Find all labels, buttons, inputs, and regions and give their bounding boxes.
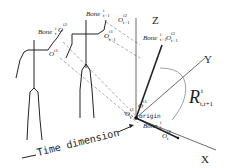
time-dimension-label: Time dimension bbox=[36, 127, 120, 158]
svg-text:i1: i1 bbox=[54, 48, 58, 53]
origin-point bbox=[134, 116, 138, 120]
bone-t-endpoint bbox=[177, 137, 179, 139]
svg-text:i1: i1 bbox=[130, 107, 134, 112]
svg-text:t: t bbox=[167, 136, 169, 141]
svg-text:i: i bbox=[201, 87, 203, 95]
bone-rotation-diagram: Time dimension Z Y X origin R i t,t+1 Bo… bbox=[0, 0, 230, 168]
svg-text:O: O bbox=[58, 26, 63, 34]
axis-frame-labels: Bone t+1 i O i2 t+1 O i1 O i1 t Bone t i… bbox=[125, 31, 178, 141]
svg-text:Bone: Bone bbox=[86, 10, 100, 18]
time-dimension-arrow: Time dimension bbox=[22, 124, 134, 158]
origin-label: origin bbox=[139, 112, 161, 120]
svg-text:i: i bbox=[160, 120, 162, 125]
svg-text:t+1: t+1 bbox=[123, 20, 130, 25]
svg-text:Bone: Bone bbox=[38, 28, 52, 36]
svg-text:i: i bbox=[55, 26, 57, 31]
svg-text:i2: i2 bbox=[167, 129, 171, 134]
svg-text:i2: i2 bbox=[123, 13, 127, 18]
svg-text:t,t+1: t,t+1 bbox=[200, 100, 214, 108]
svg-text:i1: i1 bbox=[143, 99, 147, 104]
svg-text:i1: i1 bbox=[109, 29, 113, 34]
svg-text:t: t bbox=[160, 125, 162, 130]
figure-t-labels: Bone t i O i2 O i1 bbox=[38, 22, 67, 58]
svg-text:t+1: t+1 bbox=[103, 13, 110, 18]
figure-t1-labels: Bone t+1 i O i1 t+1 O i2 t+1 bbox=[86, 8, 130, 42]
z-axis-label: Z bbox=[152, 14, 159, 26]
svg-text:t+1: t+1 bbox=[171, 38, 178, 43]
svg-text:t: t bbox=[55, 31, 57, 36]
skeleton-figure-t bbox=[16, 30, 62, 140]
svg-text:i2: i2 bbox=[171, 31, 175, 36]
diagram-svg: Time dimension Z Y X origin R i t,t+1 Bo… bbox=[0, 0, 230, 168]
svg-text:t+1: t+1 bbox=[109, 37, 116, 42]
svg-text:Bone: Bone bbox=[143, 122, 157, 130]
rotation-label: R i t,t+1 bbox=[188, 87, 214, 108]
y-axis-label: Y bbox=[204, 53, 212, 65]
x-axis-label: X bbox=[201, 153, 209, 165]
svg-text:i2: i2 bbox=[63, 22, 67, 27]
skeleton-figure-t1 bbox=[66, 20, 106, 118]
svg-text:R: R bbox=[188, 87, 200, 107]
svg-text:Bone: Bone bbox=[143, 34, 157, 42]
